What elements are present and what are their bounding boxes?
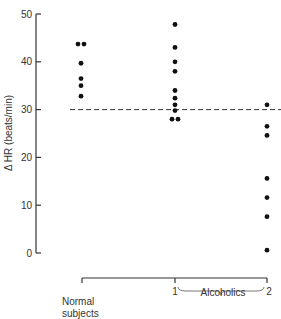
data-point	[265, 102, 270, 107]
y-axis-label: Δ HR (beats/min)	[3, 95, 14, 171]
y-tick-label: 20	[21, 152, 33, 163]
data-point	[176, 117, 181, 122]
group-label: Alcoholics	[200, 287, 245, 298]
chart: 01020304050 12AlcoholicsNormalsubjects Δ…	[0, 0, 281, 319]
y-tick-label: 30	[21, 104, 33, 115]
data-point	[79, 76, 84, 81]
data-point	[265, 133, 270, 138]
data-point	[173, 108, 178, 113]
data-point	[173, 22, 178, 27]
y-axis: 01020304050	[21, 9, 41, 259]
data-point	[173, 102, 178, 107]
data-point	[173, 88, 178, 93]
data-point	[76, 42, 81, 47]
data-point	[170, 117, 175, 122]
x-tick-label: 1	[172, 286, 178, 297]
y-tick-label: 50	[21, 9, 33, 20]
data-point	[173, 96, 178, 101]
data-point	[79, 61, 84, 66]
y-tick-label: 0	[26, 248, 32, 259]
data-point	[265, 124, 270, 129]
data-points	[76, 22, 270, 252]
category-label-normal: Normalsubjects	[62, 296, 99, 319]
data-point	[82, 42, 87, 47]
y-tick-label: 10	[21, 200, 33, 211]
data-point	[265, 176, 270, 181]
data-point	[265, 214, 270, 219]
data-point	[265, 248, 270, 253]
data-point	[265, 195, 270, 200]
data-point	[79, 83, 84, 88]
y-tick-label: 40	[21, 56, 33, 67]
x-axis: 12AlcoholicsNormalsubjects	[62, 278, 272, 319]
data-point	[173, 45, 178, 50]
x-tick-label: 2	[266, 286, 272, 297]
data-point	[173, 59, 178, 64]
data-point	[173, 69, 178, 74]
data-point	[79, 94, 84, 99]
